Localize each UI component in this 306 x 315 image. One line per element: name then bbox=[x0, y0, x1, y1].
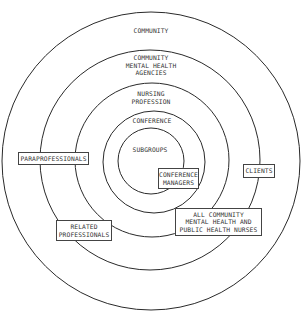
box-conference-managers: CONFERENCE MANAGERS bbox=[158, 168, 199, 189]
label-nursing-profession: NURSING PROFESSION bbox=[132, 90, 171, 105]
box-paraprofessionals: PARAPROFESSIONALS bbox=[18, 152, 89, 165]
label-mental-health-agencies: COMMUNITY MENTAL HEALTH AGENCIES bbox=[126, 54, 177, 77]
label-community: COMMUNITY bbox=[133, 27, 168, 35]
box-related-professionals: RELATED PROFESSIONALS bbox=[56, 220, 112, 241]
box-all-community-nurses: ALL COMMUNITY MENTAL HEALTH AND PUBLIC H… bbox=[175, 208, 262, 236]
label-subgroups: SUBGROUPS bbox=[132, 146, 167, 154]
label-conference: CONFERENCE bbox=[133, 117, 172, 125]
concentric-circles-diagram: COMMUNITY COMMUNITY MENTAL HEALTH AGENCI… bbox=[0, 0, 306, 315]
box-clients: CLIENTS bbox=[243, 164, 275, 178]
